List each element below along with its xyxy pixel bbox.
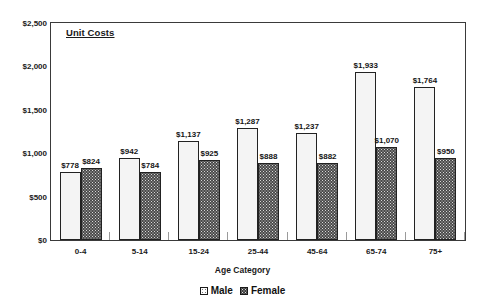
bar-group: $1,764$950 (406, 23, 465, 240)
x-axis-tick-label: 65-74 (366, 247, 386, 256)
bar-value-label: $925 (200, 149, 218, 158)
x-axis-tick-label: 75+ (429, 247, 443, 256)
bar-value-label: $882 (319, 152, 337, 161)
bar-group: $778$824 (51, 23, 110, 240)
bar-value-label: $1,764 (413, 76, 437, 85)
bar-group: $1,137$925 (169, 23, 228, 240)
bar-group: $1,287$888 (228, 23, 287, 240)
male-swatch-icon (200, 287, 208, 295)
x-axis-tick-label: 45-64 (307, 247, 327, 256)
y-axis: $0$500$1,000$1,500$2,000$2,500 (0, 0, 47, 308)
bars-layer: $778$824$942$784$1,137$925$1,287$888$1,2… (51, 23, 465, 240)
bar-male-15-24 (178, 141, 199, 240)
y-axis-tick-label: $2,000 (3, 62, 47, 71)
x-axis-tick-label: 25-44 (248, 247, 268, 256)
bar-female-65-74 (376, 147, 397, 240)
y-axis-tick-label: $1,500 (3, 105, 47, 114)
bar-female-5-14 (140, 172, 161, 240)
legend-item-female: Female (240, 285, 285, 296)
bar-male-25-44 (237, 128, 258, 240)
bar-male-5-14 (119, 158, 140, 240)
bar-value-label: $1,070 (375, 136, 399, 145)
category-separator (464, 232, 465, 240)
y-axis-tick-label: $0 (3, 236, 47, 245)
bar-group: $1,237$882 (288, 23, 347, 240)
bar-value-label: $950 (437, 147, 455, 156)
x-axis-title: Age Category (0, 265, 485, 275)
legend-label: Female (251, 285, 285, 296)
bar-value-label: $1,237 (294, 122, 318, 131)
x-axis-tick-label: 5-14 (132, 247, 148, 256)
bar-female-0-4 (81, 168, 102, 240)
bar-male-0-4 (60, 172, 81, 240)
legend-label: Male (211, 285, 233, 296)
y-axis-tick-label: $1,000 (3, 149, 47, 158)
bar-female-45-64 (317, 163, 338, 240)
legend-item-male: Male (200, 285, 233, 296)
y-axis-tick-label: $500 (3, 192, 47, 201)
bar-male-65-74 (355, 72, 376, 240)
x-axis-tick-label: 15-24 (189, 247, 209, 256)
bar-value-label: $1,137 (176, 130, 200, 139)
bar-value-label: $888 (260, 152, 278, 161)
bar-male-75+ (414, 87, 435, 240)
bar-value-label: $942 (120, 147, 138, 156)
bar-value-label: $824 (82, 157, 100, 166)
x-axis-tick-label: 0-4 (75, 247, 87, 256)
bar-value-label: $778 (61, 161, 79, 170)
bar-male-45-64 (296, 133, 317, 240)
bar-value-label: $784 (141, 161, 159, 170)
chart-screenshot: $0$500$1,000$1,500$2,000$2,500 Unit Cost… (0, 0, 485, 308)
bar-female-25-44 (258, 163, 279, 240)
bar-group: $1,933$1,070 (347, 23, 406, 240)
female-swatch-icon (240, 287, 248, 295)
y-axis-tick-label: $2,500 (3, 19, 47, 28)
bar-female-75+ (435, 158, 456, 240)
chart-legend: MaleFemale (0, 285, 485, 296)
bar-value-label: $1,287 (235, 117, 259, 126)
bar-female-15-24 (199, 160, 220, 240)
bar-group: $942$784 (110, 23, 169, 240)
bar-value-label: $1,933 (354, 61, 378, 70)
